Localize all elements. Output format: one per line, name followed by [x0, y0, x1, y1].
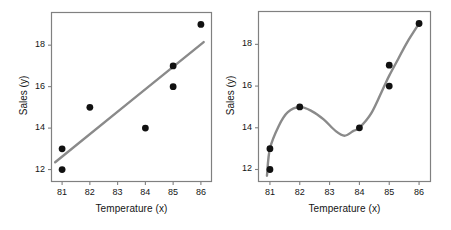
right-x-tick-label: 81	[258, 187, 282, 197]
right-y-tick-label: 14	[230, 122, 252, 132]
left-x-axis-title: Temperature (x)	[51, 203, 212, 214]
right-panel: Sales (y) Temperature (x) 81828384858612…	[225, 0, 451, 230]
right-plot-frame	[259, 12, 431, 182]
left-x-tick-label: 81	[50, 187, 74, 197]
right-x-tick-label: 85	[377, 187, 401, 197]
right-data-point	[356, 124, 363, 131]
left-data-point	[142, 125, 149, 132]
right-y-tick-label: 18	[230, 38, 252, 48]
left-y-tick-label: 14	[23, 122, 45, 132]
left-data-point	[170, 83, 177, 90]
right-x-tick-label: 82	[288, 187, 312, 197]
right-x-tick-label: 84	[347, 187, 371, 197]
right-data-point	[386, 83, 393, 90]
left-y-tick-label: 18	[23, 39, 45, 49]
left-y-tick-label: 16	[23, 81, 45, 91]
left-data-point	[198, 21, 205, 28]
left-plot-frame	[52, 13, 212, 182]
left-x-tick-label: 83	[106, 187, 130, 197]
right-y-tick-label: 16	[230, 80, 252, 90]
left-x-tick-label: 84	[133, 187, 157, 197]
right-data-point	[296, 104, 303, 111]
left-y-tick-label: 12	[23, 164, 45, 174]
left-x-tick-label: 85	[161, 187, 185, 197]
left-x-tick-label: 86	[189, 187, 213, 197]
right-x-tick-label: 86	[407, 187, 431, 197]
left-fit-least-squares-fit	[55, 42, 204, 162]
right-data-point	[386, 62, 393, 69]
right-data-point	[416, 20, 423, 27]
right-x-tick-label: 83	[318, 187, 342, 197]
left-data-point	[59, 166, 66, 173]
left-panel: Sales (y) Temperature (x) 81828384858612…	[0, 0, 225, 230]
left-data-point	[59, 145, 66, 152]
left-x-tick-label: 82	[78, 187, 102, 197]
right-data-point	[267, 166, 274, 173]
two-panel-scatter-figure: Sales (y) Temperature (x) 81828384858612…	[0, 0, 451, 230]
right-x-axis-title: Temperature (x)	[258, 203, 431, 214]
left-data-point	[170, 63, 177, 70]
right-y-tick-label: 12	[230, 163, 252, 173]
right-fit-overfit-spline	[267, 24, 419, 176]
left-data-point	[86, 104, 93, 111]
right-data-point	[267, 145, 274, 152]
